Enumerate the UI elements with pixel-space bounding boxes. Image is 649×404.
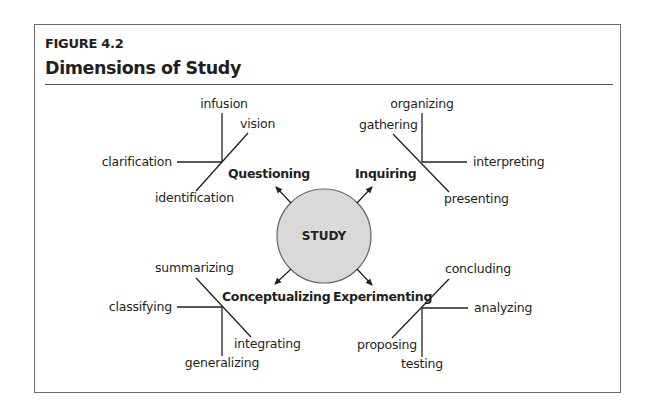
arrow-to-inquiring <box>357 187 372 203</box>
branch-label: classifying <box>109 299 172 314</box>
branch-label: generalizing <box>185 355 259 370</box>
branch-label: interpreting <box>473 154 544 169</box>
dimension-title: Conceptualizing <box>222 289 330 304</box>
branch-label: gathering <box>359 117 418 132</box>
branch-label: identification <box>155 190 234 205</box>
study-label: STUDY <box>302 229 347 243</box>
dimension-questioning: infusion vision clarification identifica… <box>102 96 310 205</box>
branch-label: organizing <box>390 96 453 111</box>
dimension-experimenting: concluding analyzing proposing testing E… <box>333 261 532 371</box>
dimension-title: Questioning <box>228 166 310 181</box>
study-node: STUDY <box>277 189 371 283</box>
branch-label: infusion <box>200 96 248 111</box>
branch-label: integrating <box>234 336 301 351</box>
branch-label: presenting <box>444 191 509 206</box>
dimension-inquiring: organizing gathering interpreting presen… <box>355 96 544 206</box>
branch-line-gathering-presenting <box>393 134 449 192</box>
branch-label: clarification <box>102 154 172 169</box>
branch-label: vision <box>240 116 275 131</box>
dimension-conceptualizing: summarizing classifying integrating gene… <box>109 260 331 370</box>
dimension-title: Experimenting <box>333 289 432 304</box>
branch-label: summarizing <box>155 260 234 275</box>
study-diagram: STUDY infusion vision clarification iden… <box>0 0 649 404</box>
arrow-to-questioning <box>276 187 291 203</box>
dimension-title: Inquiring <box>355 166 416 181</box>
branch-label: testing <box>401 356 443 371</box>
arrow-to-experimenting <box>357 269 372 285</box>
branch-label: concluding <box>445 261 511 276</box>
branch-label: proposing <box>357 337 417 352</box>
arrow-to-conceptualizing <box>275 269 291 284</box>
branch-label: analyzing <box>474 300 532 315</box>
